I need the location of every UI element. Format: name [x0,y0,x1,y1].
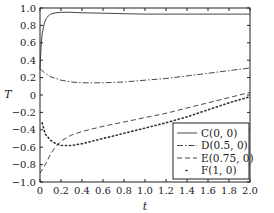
x-tick-label: 1.0 [137,185,153,196]
x-tick-label: 0.8 [116,185,132,196]
x-tick-label: 1.6 [200,185,216,196]
y-tick-label: −1.0 [12,177,36,188]
y-tick-label: −0.6 [12,142,36,153]
x-axis-label: t [143,200,148,213]
y-tick-label: −0.4 [12,124,36,135]
x-tick-label: 0.2 [53,185,69,196]
y-tick-label: 0.8 [20,20,36,31]
legend-label: C(0, 0) [201,127,237,139]
legend: C(0, 0)D(0.5, 0)E(0.75, 0)F(1, 0) [173,123,254,179]
y-tick-label: 0.4 [20,55,36,66]
legend-label: D(0.5, 0) [201,139,248,151]
y-tick-label: 0.2 [20,72,36,83]
y-tick-label: 0.6 [20,37,36,48]
x-tick-label: 0 [37,185,43,196]
legend-label: F(1, 0) [201,164,237,176]
x-tick-label: 1.8 [221,185,237,196]
series-line-0 [40,12,250,69]
y-tick-label: −0.8 [12,159,36,170]
y-tick-label: 0 [30,90,36,101]
legend-label: E(0.75, 0) [201,152,254,164]
y-axis-label: T [4,88,13,101]
x-tick-label: 2.0 [242,185,258,196]
x-tick-label: 1.4 [179,185,195,196]
y-tick-label: −0.2 [12,107,36,118]
x-tick-label: 0.6 [95,185,111,196]
series-line-1 [40,68,250,83]
x-tick-label: 1.2 [158,185,174,196]
x-tick-label: 0.4 [74,185,90,196]
line-chart: 00.20.40.60.81.01.21.41.61.82.01.00.80.6… [0,0,274,213]
y-tick-label: 1.0 [20,3,36,14]
